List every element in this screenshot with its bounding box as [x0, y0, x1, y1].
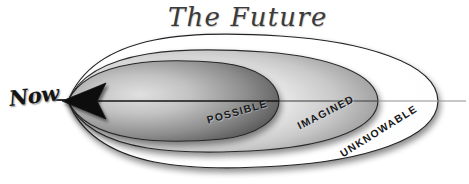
futures-cone-diagram: The Future Now POSSIBLE IMAGINED UNKNOWA… — [0, 0, 469, 184]
page-title: The Future — [168, 2, 328, 32]
